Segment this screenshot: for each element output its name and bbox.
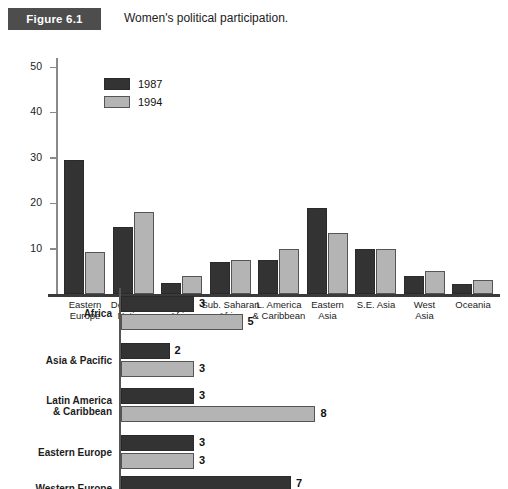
bar-value-label: 3 bbox=[199, 362, 205, 374]
horizontal-bar bbox=[121, 476, 291, 489]
figure-caption: Women's political participation. bbox=[124, 11, 288, 25]
horizontal-bar bbox=[121, 361, 194, 377]
horizontal-category-label-line: Africa bbox=[0, 308, 112, 319]
horizontal-category-label-line: Latin America bbox=[0, 395, 112, 406]
y-tick-label: 10 bbox=[14, 242, 42, 254]
bar-value-label: 7 bbox=[296, 477, 302, 489]
horizontal-bar bbox=[121, 435, 194, 451]
horizontal-bar bbox=[121, 406, 315, 422]
vertical-bar bbox=[307, 208, 327, 294]
y-tick-mark bbox=[50, 248, 56, 250]
y-tick-label: 50 bbox=[14, 60, 42, 72]
vertical-bar-chart: 1020304050 EasternEuropeDevelopedNations… bbox=[0, 46, 508, 286]
figure-header: Figure 6.1 Women's political participati… bbox=[0, 0, 508, 40]
vertical-bar bbox=[113, 227, 133, 294]
horizontal-category-label: Asia & Pacific bbox=[0, 355, 112, 366]
y-tick-label: 30 bbox=[14, 151, 42, 163]
horizontal-bar bbox=[121, 453, 194, 469]
legend-label-1994: 1994 bbox=[138, 96, 162, 108]
legend-entry-1987: 1987 bbox=[104, 76, 162, 91]
y-tick-mark bbox=[50, 203, 56, 205]
bar-value-label: 3 bbox=[199, 389, 205, 401]
legend-label-1987: 1987 bbox=[138, 78, 162, 90]
bar-value-label: 8 bbox=[320, 407, 326, 419]
legend-vertical-chart: 1987 1994 bbox=[104, 76, 162, 112]
legend-swatch-1994-icon bbox=[104, 96, 130, 108]
horizontal-category-label-line: Eastern Europe bbox=[0, 447, 112, 458]
bar-value-label: 3 bbox=[199, 454, 205, 466]
horizontal-category-label: Western Europe& others bbox=[0, 483, 112, 489]
bar-value-label: 2 bbox=[175, 344, 181, 356]
horizontal-category-label-line: Western Europe bbox=[0, 483, 112, 489]
horizontal-category-label: Eastern Europe bbox=[0, 447, 112, 458]
horizontal-category-label-line: Asia & Pacific bbox=[0, 355, 112, 366]
figure-number-badge: Figure 6.1 bbox=[8, 8, 101, 30]
y-tick-mark bbox=[50, 112, 56, 114]
y-axis-line bbox=[56, 58, 58, 296]
horizontal-category-label: Africa bbox=[0, 308, 112, 319]
horizontal-category-label: Latin America& Caribbean bbox=[0, 395, 112, 417]
horizontal-category-label-line: & Caribbean bbox=[0, 406, 112, 417]
horizontal-bar bbox=[121, 296, 194, 312]
horizontal-bar bbox=[121, 388, 194, 404]
bar-value-label: 3 bbox=[199, 297, 205, 309]
legend-entry-1994: 1994 bbox=[104, 94, 162, 109]
bar-value-label: 5 bbox=[248, 315, 254, 327]
y-tick-label: 40 bbox=[14, 105, 42, 117]
y-tick-mark bbox=[50, 157, 56, 159]
horizontal-bar bbox=[121, 343, 170, 359]
y-tick-mark bbox=[50, 67, 56, 69]
bar-value-label: 3 bbox=[199, 436, 205, 448]
y-tick-label: 20 bbox=[14, 196, 42, 208]
horizontal-bar bbox=[121, 314, 243, 330]
legend-swatch-1987-icon bbox=[104, 78, 130, 90]
vertical-bar bbox=[328, 233, 348, 294]
horizontal-bar-chart: Africa35Asia & Pacific23Latin America& C… bbox=[0, 288, 508, 489]
vertical-bar bbox=[134, 212, 154, 294]
vertical-bar bbox=[64, 160, 84, 294]
